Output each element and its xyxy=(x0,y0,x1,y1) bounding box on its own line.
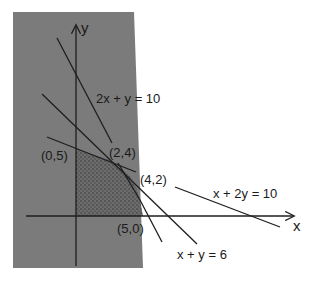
lp-feasible-region-diagram: y x 2x + y = 10 x + y = 6 x + 2y = 10 (0… xyxy=(0,0,312,283)
vertex-label-0-5: (0,5) xyxy=(41,148,68,163)
y-axis-label: y xyxy=(81,19,89,36)
vertex-label-4-2: (4,2) xyxy=(140,172,167,187)
constraint-label-2x-plus-y: 2x + y = 10 xyxy=(96,91,160,106)
constraint-label-x-plus-2y: x + 2y = 10 xyxy=(213,186,277,201)
x-axis-label: x xyxy=(293,217,301,234)
vertex-label-5-0: (5,0) xyxy=(117,221,144,236)
constraint-label-x-plus-y: x + y = 6 xyxy=(177,247,227,262)
vertex-label-2-4: (2,4) xyxy=(109,145,136,160)
diagram-canvas: y x 2x + y = 10 x + y = 6 x + 2y = 10 (0… xyxy=(0,0,312,283)
